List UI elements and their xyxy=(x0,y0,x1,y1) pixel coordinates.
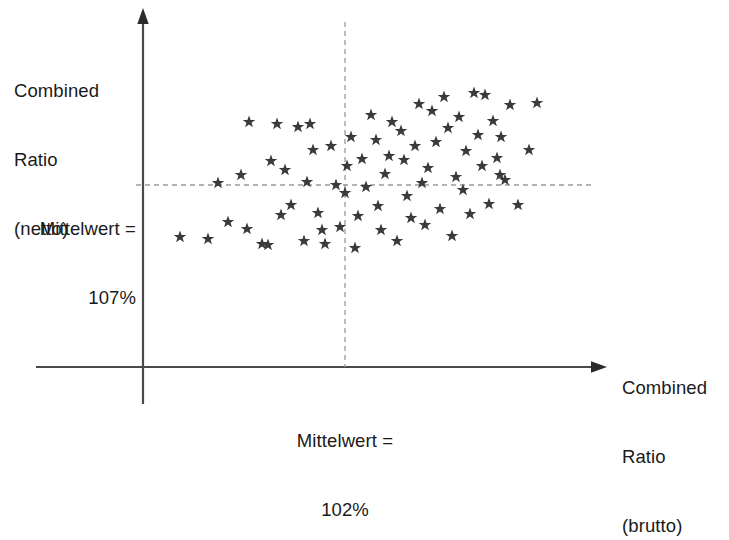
data-point-star-icon xyxy=(442,122,455,134)
data-point-star-icon xyxy=(235,169,248,181)
data-point-star-icon xyxy=(464,208,477,220)
data-point-star-icon xyxy=(360,181,373,193)
data-point-star-icon xyxy=(316,224,329,236)
data-point-star-icon xyxy=(483,198,496,210)
data-point-star-icon xyxy=(174,231,187,243)
data-point-star-icon xyxy=(271,118,284,130)
data-point-star-icon xyxy=(243,116,256,128)
x-axis-title: Combined Ratio (brutto) xyxy=(622,330,707,540)
x-mean-value: 102% xyxy=(255,498,435,521)
x-mean-label-text: Mittelwert = xyxy=(255,429,435,452)
data-point-star-icon xyxy=(292,121,305,133)
data-point-star-icon xyxy=(457,184,470,196)
data-point-star-icon xyxy=(479,89,492,101)
data-point-star-icon xyxy=(330,179,343,191)
y-axis-title-line-1: Combined xyxy=(14,79,99,102)
data-point-star-icon xyxy=(398,154,411,166)
data-point-star-icon xyxy=(304,118,317,130)
data-point-star-icon xyxy=(262,239,275,251)
x-axis xyxy=(36,361,607,372)
data-point-star-icon xyxy=(312,207,325,219)
data-point-star-icon xyxy=(531,97,544,109)
data-point-star-icon xyxy=(495,131,508,143)
data-point-star-icon xyxy=(349,242,362,254)
data-point-star-icon xyxy=(365,109,378,121)
data-point-star-icon xyxy=(504,99,517,111)
data-point-star-icon xyxy=(512,199,525,211)
data-point-star-icon xyxy=(422,162,435,174)
data-point-star-icon xyxy=(370,134,383,146)
data-point-star-icon xyxy=(453,111,466,123)
data-point-star-icon xyxy=(375,224,388,236)
data-point-star-icon xyxy=(298,235,311,247)
y-axis-title-line-2: Ratio xyxy=(14,148,99,171)
data-point-star-icon xyxy=(395,125,408,137)
data-point-star-icon xyxy=(372,200,385,212)
data-point-star-icon xyxy=(241,223,254,235)
data-point-star-icon xyxy=(450,171,463,183)
x-axis-arrow-icon xyxy=(591,361,607,372)
data-point-star-icon xyxy=(275,209,288,221)
data-point-star-icon xyxy=(307,144,320,156)
data-point-star-icon xyxy=(446,230,459,242)
data-point-star-icon xyxy=(202,233,215,245)
x-mean-annotation: Mittelwert = 102% xyxy=(255,383,435,540)
data-point-group xyxy=(174,87,544,254)
y-mean-value: 107% xyxy=(8,286,136,309)
x-axis-title-line-3: (brutto) xyxy=(622,514,707,537)
y-mean-annotation: Mittelwert = 107% xyxy=(8,171,136,355)
data-point-star-icon xyxy=(416,177,429,189)
data-point-star-icon xyxy=(430,136,443,148)
data-point-star-icon xyxy=(356,153,369,165)
y-axis-arrow-icon xyxy=(137,8,148,24)
data-point-star-icon xyxy=(491,152,504,164)
data-point-star-icon xyxy=(472,129,485,141)
data-point-star-icon xyxy=(419,219,432,231)
data-point-star-icon xyxy=(434,203,447,215)
data-point-star-icon xyxy=(426,105,439,117)
data-point-star-icon xyxy=(345,131,358,143)
data-point-star-icon xyxy=(352,210,365,222)
x-axis-title-line-2: Ratio xyxy=(622,445,707,468)
data-point-star-icon xyxy=(523,144,536,156)
data-point-star-icon xyxy=(405,212,418,224)
x-axis-title-line-1: Combined xyxy=(622,376,707,399)
data-point-star-icon xyxy=(379,168,392,180)
data-point-star-icon xyxy=(383,150,396,162)
data-point-star-icon xyxy=(325,140,338,152)
data-point-star-icon xyxy=(413,98,426,110)
data-point-star-icon xyxy=(409,140,422,152)
data-point-star-icon xyxy=(460,145,473,157)
data-point-star-icon xyxy=(265,155,278,167)
y-mean-label-text: Mittelwert = xyxy=(8,217,136,240)
data-point-star-icon xyxy=(401,190,414,202)
data-point-star-icon xyxy=(222,216,235,228)
data-point-star-icon xyxy=(487,115,500,127)
data-point-star-icon xyxy=(285,199,298,211)
data-point-star-icon xyxy=(319,238,332,250)
y-axis xyxy=(137,8,148,404)
data-point-star-icon xyxy=(386,116,399,128)
data-point-star-icon xyxy=(341,160,354,172)
data-point-star-icon xyxy=(438,91,451,103)
data-point-star-icon xyxy=(391,235,404,247)
data-point-star-icon xyxy=(468,87,481,99)
data-point-star-icon xyxy=(476,160,489,172)
data-point-star-icon xyxy=(279,164,292,176)
data-point-star-icon xyxy=(212,177,225,189)
